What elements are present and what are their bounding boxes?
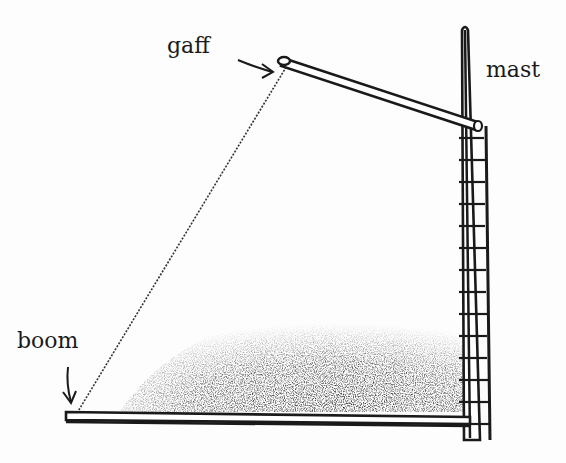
boom-arrow-icon (63, 367, 76, 403)
boom (66, 412, 470, 426)
mast-label: mast (486, 57, 540, 82)
gaff-label: gaff (167, 33, 210, 58)
boom-label: boom (17, 328, 78, 353)
mast (459, 27, 490, 440)
gaff-arrow-icon (238, 60, 273, 78)
gaff-rig-diagram: gaff mast boom (0, 0, 566, 463)
sketch-canvas (0, 0, 566, 463)
sail-shading (120, 293, 468, 412)
gaff (278, 57, 482, 131)
